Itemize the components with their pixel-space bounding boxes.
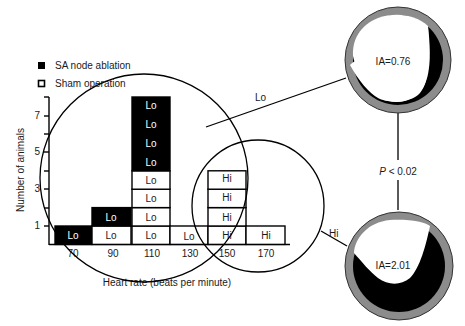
x-tick-110: 110 [144, 248, 160, 259]
y-tick-7: 7 [34, 110, 40, 121]
cell-label: Lo [145, 157, 157, 168]
cell-label: Hi [222, 192, 231, 203]
legend-sham-swatch-icon [39, 81, 45, 87]
cell-label: Lo [145, 138, 157, 149]
cell-label: Lo [145, 175, 157, 186]
y-tick-3: 3 [34, 183, 40, 194]
lo-section-disc: IA=0.76 [345, 7, 451, 113]
y-tick-1: 1 [34, 220, 40, 231]
hi-connector-label: Hi [329, 228, 338, 239]
cell-label: Lo [183, 231, 195, 242]
cell-label: Lo [105, 230, 117, 241]
cell-label: Hi [222, 173, 231, 184]
cell-label: Lo [67, 230, 79, 241]
cell-label: Lo [145, 193, 157, 204]
cell-label: Lo [105, 212, 117, 223]
hi-section-disc: IA=2.01 [345, 212, 453, 320]
cell-label: Lo [145, 100, 157, 111]
legend-sham-label: Sham operation [55, 78, 126, 89]
cell-label: Hi [261, 230, 270, 241]
y-tick-labels: 1 3 5 7 [34, 110, 40, 231]
heart-rate-histogram-figure: SA node ablation Sham operation 1 3 5 7 … [0, 0, 465, 326]
hi-ia-label: IA=2.01 [376, 260, 411, 271]
x-tick-170: 170 [258, 248, 275, 259]
x-tick-150: 150 [219, 248, 236, 259]
y-tick-5: 5 [34, 146, 40, 157]
legend-ablation-label: SA node ablation [55, 60, 131, 71]
cell-label: Lo [145, 230, 157, 241]
lo-connector-label: Lo [255, 92, 267, 103]
lo-connector-line [206, 78, 346, 127]
p-value-label: P < 0.02 [379, 166, 417, 177]
legend-ablation-swatch-icon [38, 62, 45, 69]
y-axis-label: Number of animals [15, 128, 26, 212]
cell-label: Lo [145, 119, 157, 130]
y-axis [44, 97, 49, 245]
x-axis-label: Heart rate (beats per minute) [103, 277, 231, 288]
histogram-bars [55, 97, 285, 244]
legend: SA node ablation Sham operation [38, 60, 131, 89]
x-tick-90: 90 [107, 248, 119, 259]
cell-label: Hi [222, 212, 231, 223]
cell-label: Lo [145, 212, 157, 223]
x-tick-labels: 70 90 110 130 150 170 [67, 248, 274, 259]
p-threshold: < 0.02 [386, 166, 417, 177]
x-tick-130: 130 [182, 248, 199, 259]
lo-ia-label: IA=0.76 [376, 56, 411, 67]
